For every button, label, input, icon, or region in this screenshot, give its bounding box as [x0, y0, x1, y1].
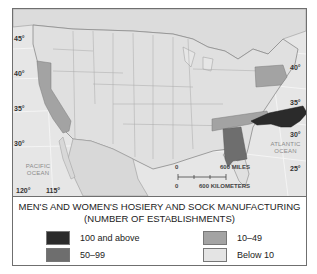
scale-km-label: 600 KILOMETERS — [199, 183, 250, 189]
latitude-label-45: 45° — [14, 35, 25, 42]
pacific-ocean-label: PACIFIC OCEAN — [18, 163, 58, 177]
latitude-label-40: 40° — [14, 70, 25, 77]
legend-title: MEN'S AND WOMEN'S HOSIERY AND SOCK MANUF… — [13, 201, 306, 225]
legend-label: 100 and above — [80, 233, 140, 243]
latitude-label-right-35: 35° — [290, 99, 301, 106]
legend-item-100-plus: 100 and above — [46, 231, 140, 245]
state-pennsylvania — [255, 65, 287, 87]
legend-swatch — [46, 231, 70, 245]
legend-swatch — [203, 248, 227, 262]
longitude-label-120: 120° — [16, 187, 30, 194]
scale-km-zero: 0 — [175, 183, 178, 189]
legend-item-below-10: Below 10 — [203, 248, 274, 262]
legend-label: Below 10 — [237, 250, 274, 260]
scale-miles-label: 600 MILES — [220, 164, 250, 170]
latitude-label-30: 30° — [14, 140, 25, 147]
legend-title-main: MEN'S AND WOMEN'S HOSIERY AND SOCK MANUF… — [13, 201, 306, 213]
longitude-label-115: 115° — [46, 187, 60, 194]
latitude-label-right-40: 40° — [290, 64, 301, 71]
latitude-label-35: 35° — [14, 105, 25, 112]
map-legend: MEN'S AND WOMEN'S HOSIERY AND SOCK MANUF… — [13, 197, 306, 265]
legend-item-50-99: 50–99 — [46, 248, 105, 262]
legend-label: 10–49 — [237, 233, 262, 243]
legend-item-10-49: 10–49 — [203, 231, 262, 245]
legend-swatch — [203, 231, 227, 245]
latitude-label-right-25: 25° — [290, 165, 301, 172]
map-figure: 45° 40° 35° 30° 40° 35° 30° 25° 120° 115… — [12, 8, 307, 266]
legend-swatch — [46, 248, 70, 262]
legend-title-sub: (NUMBER OF ESTABLISHMENTS) — [13, 213, 306, 225]
atlantic-ocean-label: ATLANTIC OCEAN — [263, 141, 306, 155]
legend-label: 50–99 — [80, 250, 105, 260]
scale-miles-zero: 0 — [175, 164, 178, 170]
us-choropleth-map: 45° 40° 35° 30° 40° 35° 30° 25° 120° 115… — [13, 9, 306, 197]
latitude-label-right-30: 30° — [290, 131, 301, 138]
